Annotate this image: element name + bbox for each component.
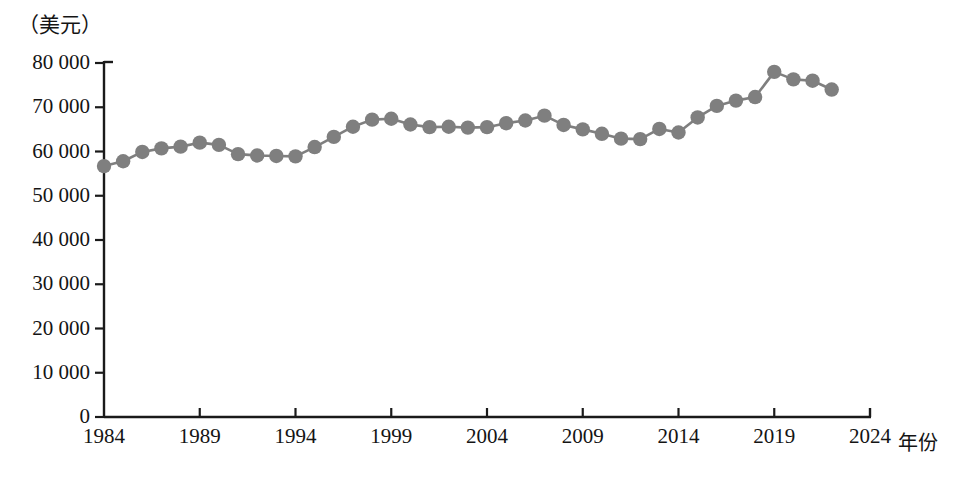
y-axis-tick-label: 30 000 <box>32 273 90 294</box>
data-point-marker <box>327 130 341 144</box>
data-point-marker <box>748 90 762 104</box>
y-axis-ticks <box>95 63 104 417</box>
x-axis-tick-label: 1989 <box>160 426 240 447</box>
data-point-marker <box>537 108 551 122</box>
chart-plot-svg <box>0 0 957 492</box>
data-point-marker <box>307 140 321 154</box>
x-axis-tick-label: 2014 <box>639 426 719 447</box>
data-point-marker <box>710 99 724 113</box>
chart-page: （美元） 010 00020 00030 00040 00050 00060 0… <box>0 0 957 492</box>
data-point-marker <box>671 125 685 139</box>
data-point-marker <box>729 93 743 107</box>
x-axis-title: 年份 <box>898 427 938 456</box>
x-axis-ticks <box>200 408 775 417</box>
data-point-marker <box>212 138 226 152</box>
y-axis-tick-label: 60 000 <box>32 141 90 162</box>
line-chart: （美元） 010 00020 00030 00040 00050 00060 0… <box>0 0 957 492</box>
data-point-marker <box>633 132 647 146</box>
data-point-marker <box>767 65 781 79</box>
data-point-marker <box>288 149 302 163</box>
data-point-marker <box>499 116 513 130</box>
data-point-marker <box>231 147 245 161</box>
data-point-marker <box>652 122 666 136</box>
data-point-marker <box>805 74 819 88</box>
x-axis-tick-label: 1999 <box>351 426 431 447</box>
data-point-marker <box>480 120 494 134</box>
y-axis-tick-label: 70 000 <box>32 96 90 117</box>
x-axis-tick-label: 2009 <box>543 426 623 447</box>
data-point-marker <box>403 117 417 131</box>
data-point-marker <box>690 110 704 124</box>
y-axis-tick-label: 20 000 <box>32 318 90 339</box>
data-point-marker <box>269 149 283 163</box>
data-point-marker <box>595 127 609 141</box>
data-point-marker <box>173 139 187 153</box>
y-axis-tick-label: 40 000 <box>32 229 90 250</box>
y-axis-tick-label: 80 000 <box>32 52 90 73</box>
data-point-marker <box>384 112 398 126</box>
y-axis-tick-label: 10 000 <box>32 362 90 383</box>
data-point-marker <box>365 112 379 126</box>
axes-group <box>104 61 871 417</box>
data-point-marker <box>250 148 264 162</box>
data-point-marker <box>422 120 436 134</box>
x-axis-tick-label: 2019 <box>734 426 814 447</box>
data-point-marker <box>154 141 168 155</box>
x-axis-tick-label: 1994 <box>256 426 336 447</box>
data-point-marker <box>97 159 111 173</box>
data-point-marker <box>135 145 149 159</box>
data-series-markers <box>97 65 839 174</box>
data-point-marker <box>346 120 360 134</box>
x-axis-tick-label: 1984 <box>64 426 144 447</box>
data-point-marker <box>518 113 532 127</box>
data-point-marker <box>116 154 130 168</box>
data-point-marker <box>442 120 456 134</box>
data-point-marker <box>461 120 475 134</box>
data-point-marker <box>786 72 800 86</box>
data-series-line <box>104 72 832 166</box>
data-point-marker <box>576 122 590 136</box>
data-point-marker <box>614 131 628 145</box>
x-axis-tick-label: 2004 <box>447 426 527 447</box>
data-point-marker <box>193 135 207 149</box>
y-axis-tick-label: 50 000 <box>32 185 90 206</box>
data-point-marker <box>556 118 570 132</box>
data-point-marker <box>825 82 839 96</box>
